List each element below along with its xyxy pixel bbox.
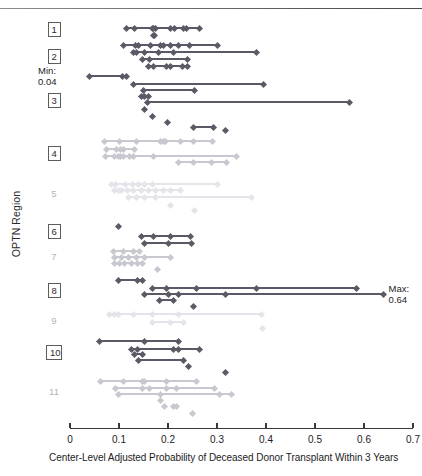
data-point	[167, 232, 174, 239]
data-point	[259, 324, 266, 331]
data-point	[253, 48, 260, 55]
x-axis-tick	[118, 423, 119, 428]
data-point	[222, 126, 229, 133]
data-point	[131, 145, 138, 152]
data-point	[170, 296, 177, 303]
range-line	[144, 89, 195, 90]
y-axis-title: OPTN Region	[10, 164, 22, 284]
data-point	[96, 337, 103, 344]
y-axis-label-region-4: 4	[48, 146, 61, 161]
data-point	[180, 318, 187, 325]
data-point	[193, 377, 200, 384]
data-point	[260, 80, 267, 87]
data-point	[233, 152, 240, 159]
data-point	[123, 24, 130, 31]
data-point	[228, 390, 235, 397]
data-point	[213, 41, 220, 48]
x-axis-tick-label: 0.7	[398, 434, 422, 445]
x-axis-tick	[167, 423, 168, 428]
data-point	[190, 137, 197, 144]
data-point	[177, 186, 184, 193]
data-point	[97, 377, 104, 384]
data-point	[167, 201, 174, 208]
y-axis-label-region-7: 7	[48, 250, 61, 263]
data-point	[190, 158, 197, 165]
data-point	[184, 55, 191, 62]
data-point	[133, 137, 140, 144]
y-axis-label-region-10: 10	[46, 345, 62, 360]
data-point	[135, 41, 142, 48]
data-point	[141, 337, 148, 344]
data-point	[133, 193, 140, 200]
data-point	[86, 72, 93, 79]
data-point	[380, 290, 387, 297]
data-point	[151, 31, 158, 38]
y-axis-label-region-1: 1	[48, 22, 61, 37]
data-point	[120, 377, 127, 384]
data-point	[346, 98, 353, 105]
data-point	[175, 345, 182, 352]
data-point	[130, 152, 137, 159]
x-axis-tick-label: 0.1	[104, 434, 134, 445]
data-point	[103, 145, 110, 152]
data-point	[167, 41, 174, 48]
data-point	[146, 55, 153, 62]
data-point	[213, 180, 220, 187]
data-point	[208, 158, 215, 165]
y-axis-label-region-9: 9	[48, 314, 61, 327]
data-point	[353, 284, 360, 291]
y-axis-label-region-6: 6	[48, 224, 61, 239]
data-point	[141, 105, 148, 112]
x-axis-tick	[216, 423, 217, 428]
data-point	[146, 384, 153, 391]
data-point	[175, 310, 182, 317]
x-axis-tick	[69, 423, 70, 428]
data-point	[138, 232, 145, 239]
data-point	[210, 123, 217, 130]
y-axis-label-region-8: 8	[48, 283, 61, 298]
data-point	[190, 302, 197, 309]
y-axis-label-region-11: 11	[46, 385, 62, 398]
data-point	[152, 186, 159, 193]
data-point	[154, 265, 161, 272]
y-axis-label-region-3: 3	[48, 93, 61, 108]
data-point	[149, 284, 156, 291]
data-point	[155, 48, 162, 55]
data-point	[183, 24, 190, 31]
data-point	[167, 318, 174, 325]
data-point	[130, 310, 137, 317]
data-point	[175, 158, 182, 165]
data-point	[170, 48, 177, 55]
data-point	[184, 62, 191, 69]
x-axis-tick-label: 0.6	[349, 434, 379, 445]
data-point	[163, 118, 170, 125]
data-point	[167, 62, 174, 69]
data-point	[149, 112, 156, 119]
data-point	[120, 41, 127, 48]
x-axis-tick-label: 0.5	[300, 434, 330, 445]
data-point	[130, 186, 137, 193]
data-point	[156, 296, 163, 303]
data-point	[164, 239, 171, 246]
data-point	[167, 253, 174, 260]
data-point	[139, 350, 146, 357]
data-point	[177, 137, 184, 144]
data-point	[253, 284, 260, 291]
range-line	[99, 340, 178, 341]
data-point	[101, 137, 108, 144]
data-point	[141, 239, 148, 246]
data-point	[141, 290, 148, 297]
range-line	[134, 83, 264, 84]
x-axis-tick-label: 0.4	[251, 434, 281, 445]
data-point	[190, 123, 197, 130]
y-axis-label-region-5: 5	[48, 187, 61, 200]
data-point	[150, 152, 157, 159]
data-point	[130, 80, 137, 87]
data-point	[173, 402, 180, 409]
x-axis-tick-label: 0.2	[153, 434, 183, 445]
data-point	[223, 158, 230, 165]
annotation-min: Min: 0.04	[38, 66, 57, 87]
data-point	[187, 232, 194, 239]
x-axis-tick	[314, 423, 315, 428]
data-point	[150, 62, 157, 69]
